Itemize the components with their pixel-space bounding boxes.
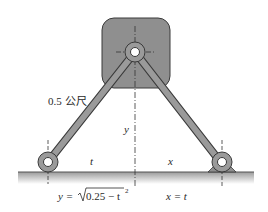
- rod-length-label: 0.5 公尺: [48, 95, 87, 107]
- vertical-label: y: [123, 123, 129, 135]
- equation-x: x = t: [165, 190, 188, 202]
- right-pivot-icon: [212, 152, 232, 172]
- equation-y-lhs: y =: [57, 190, 73, 202]
- left-pivot-icon: [38, 152, 58, 172]
- equation-y-radicand: 0.25 − t: [86, 190, 120, 202]
- ground: [18, 172, 254, 184]
- right-rod: [135, 52, 222, 164]
- linkage-diagram: 0.5 公尺 y t x y = 0.25 − t 2 x = t: [0, 0, 268, 212]
- top-pivot-icon: [125, 42, 145, 62]
- right-horizontal-label: x: [167, 155, 173, 167]
- left-rod: [48, 52, 135, 162]
- equation-y-exponent: 2: [125, 187, 129, 195]
- equation-y: y = 0.25 − t 2: [57, 187, 129, 202]
- left-horizontal-label: t: [90, 155, 94, 167]
